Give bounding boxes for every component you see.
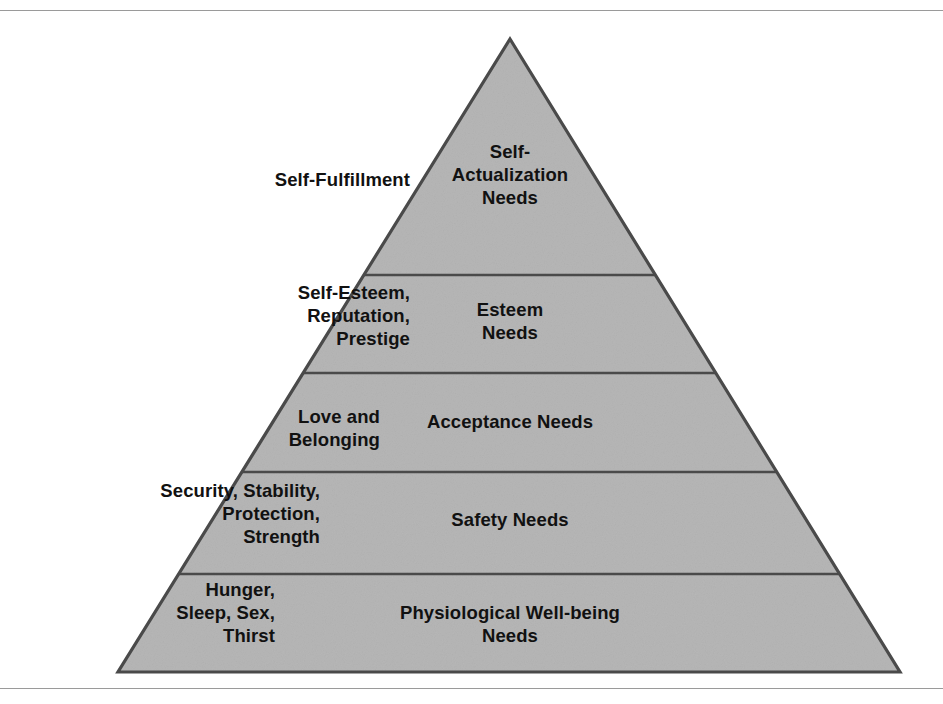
- figure-root: Self- Actualization Needs Esteem Needs A…: [0, 0, 943, 704]
- pyramid-diagram: [0, 0, 943, 704]
- pyramid-texture: [118, 39, 900, 672]
